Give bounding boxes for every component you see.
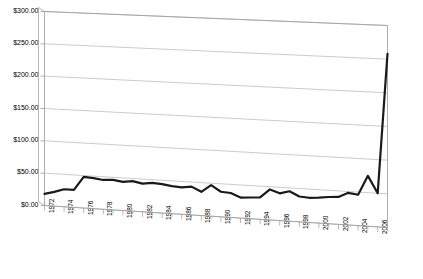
x-axis-line bbox=[45, 206, 388, 228]
gridline bbox=[45, 173, 388, 194]
wall-depth-line bbox=[39, 8, 45, 12]
gridline bbox=[45, 44, 388, 59]
line-chart: $0.00$50.00$100.00$150.00$200.00$250.00$… bbox=[0, 0, 423, 279]
gridline bbox=[45, 141, 388, 160]
gridlines bbox=[45, 12, 388, 228]
gridline bbox=[45, 109, 388, 127]
top-border-line bbox=[45, 12, 388, 26]
wall-depth-line bbox=[39, 202, 45, 206]
plot-area bbox=[0, 0, 423, 279]
gridline bbox=[45, 76, 388, 93]
x-axis-ticks bbox=[45, 206, 388, 232]
